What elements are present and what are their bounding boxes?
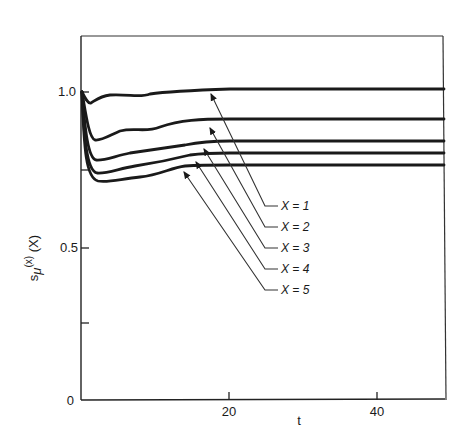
y-tick-label-0: 0 [67,393,74,408]
curve-x5 [82,92,444,182]
x-axis: 20 40 t [222,392,384,428]
x-tick-label-20: 20 [222,404,236,419]
x-axis-label: t [297,413,301,428]
curve-x3 [82,92,444,160]
curve-x4 [82,92,444,173]
ylabel-mu: μ [29,268,44,276]
leader-x5 [184,172,278,290]
legend-label-x5: X = 5 [280,283,310,297]
annotation-leaders [184,94,278,290]
y-axis-label: sμ(x) (X) [23,235,44,281]
svg-text:sμ(x) (X): sμ(x) (X) [23,235,44,281]
legend-label-x2: X = 2 [280,220,310,234]
legend-label-x1: X = 1 [280,199,309,213]
curve-x2 [82,92,444,140]
y-tick-label-1: 1.0 [58,84,76,99]
plot-frame [81,36,446,400]
y-tick-label-05: 0.5 [60,240,78,255]
legend-label-x4: X = 4 [280,262,310,276]
legend-label-x3: X = 3 [280,241,310,255]
ylabel-arg: (X) [26,235,41,256]
leader-x2 [210,128,278,227]
x-tick-label-40: 40 [370,404,384,419]
ylabel-sup: (x) [23,256,34,268]
line-chart: 1.0 0.5 0 sμ(x) (X) 20 40 t [0,0,472,448]
series-curves [82,89,444,182]
leader-x4 [196,162,278,269]
curve-x1 [82,89,444,103]
legend-labels: X = 1 X = 2 X = 3 X = 4 X = 5 [280,199,310,297]
